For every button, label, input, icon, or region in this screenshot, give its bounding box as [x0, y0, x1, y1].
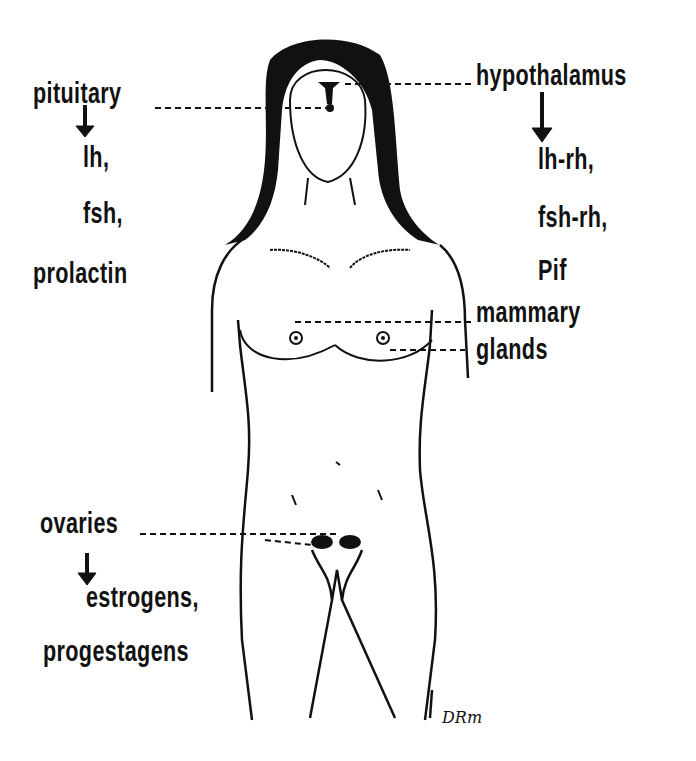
label-mammary: mammary [476, 297, 581, 327]
label-prolactin: prolactin [33, 258, 127, 288]
ovary-right [339, 535, 361, 549]
label-progestagens: progestagens [43, 636, 189, 666]
label-hypothalamus: hypothalamus [476, 60, 627, 90]
label-glands: glands [476, 334, 548, 364]
label-estrogens: estrogens, [86, 582, 199, 612]
label-fsh-rh: fsh-rh, [538, 202, 608, 232]
label-pituitary: pituitary [33, 78, 121, 108]
torso-outline [212, 238, 468, 392]
label-ovaries: ovaries [40, 508, 118, 538]
ovary-left [311, 535, 333, 549]
label-lh-rh: lh-rh, [538, 144, 594, 174]
breast-left [240, 330, 335, 359]
label-pif: Pif [538, 255, 567, 285]
label-lh: lh, [83, 142, 109, 172]
artist-signature: DRm [442, 708, 482, 727]
label-fsh: fsh, [83, 198, 123, 228]
